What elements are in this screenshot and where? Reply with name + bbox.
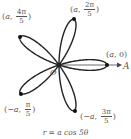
point-a-4pi5 bbox=[18, 35, 22, 39]
equation-caption: r = a cos 5θ bbox=[0, 128, 131, 137]
label-neg-a-pi5: (−a, π5) bbox=[4, 101, 35, 118]
origin-label: O bbox=[50, 68, 57, 77]
label-a-4pi5: (a, 4π5) bbox=[2, 8, 31, 25]
label-a-0: (a, 0) bbox=[106, 51, 127, 59]
point-a-0 bbox=[105, 63, 109, 67]
axis-arrow-icon bbox=[117, 63, 122, 68]
label-neg-a-3pi5: (−a, 3π5) bbox=[80, 108, 116, 125]
point-neg-a-3pi5 bbox=[73, 109, 77, 113]
point-neg-a-pi5 bbox=[19, 92, 23, 96]
axis-label: A bbox=[122, 61, 130, 71]
label-a-2pi5: (a, 2π5) bbox=[70, 1, 99, 18]
